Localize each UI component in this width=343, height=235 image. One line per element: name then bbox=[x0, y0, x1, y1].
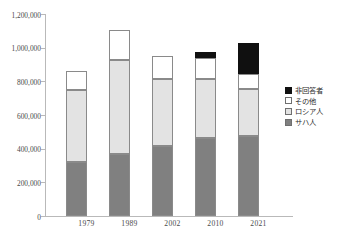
bar-segment-russians bbox=[66, 90, 87, 162]
x-axis-line bbox=[45, 216, 293, 217]
bar-segment-russians bbox=[195, 79, 216, 138]
y-axis-tick-label: 1,200,000 bbox=[0, 11, 41, 20]
bar-segment-sakha bbox=[152, 146, 173, 216]
bar-segment-russians bbox=[109, 60, 130, 154]
y-axis-tick bbox=[41, 81, 45, 82]
y-axis-tick-label: 200,000 bbox=[0, 179, 41, 188]
plot-area: 1979 1989 2002 2010 2021 bbox=[45, 14, 293, 216]
bar-segment-sakha bbox=[238, 136, 259, 216]
bar-segment-other bbox=[195, 58, 216, 79]
bar-segment-nonrespondents bbox=[238, 43, 259, 74]
y-axis-tick-label: 1,000,000 bbox=[0, 44, 41, 53]
legend-item-label: サハ人 bbox=[295, 117, 316, 127]
y-axis-tick bbox=[41, 182, 45, 183]
y-axis-tick bbox=[41, 216, 45, 217]
legend-item-label: 非回答者 bbox=[295, 85, 323, 95]
bar-segment-other bbox=[152, 56, 173, 79]
stacked-bar-chart: 1,200,000 1,000,000 800,000 600,000 400,… bbox=[0, 0, 343, 235]
light-gray-swatch-icon bbox=[285, 108, 292, 115]
y-axis-tick bbox=[41, 14, 45, 15]
y-axis-tick-label: 0 bbox=[0, 213, 41, 222]
white-swatch-icon bbox=[285, 97, 292, 104]
y-axis-tick bbox=[41, 48, 45, 49]
bar-segment-other bbox=[238, 74, 259, 89]
bar-segment-russians bbox=[152, 79, 173, 146]
legend-item-russians: ロシア人 bbox=[285, 106, 343, 117]
black-swatch-icon bbox=[285, 87, 292, 94]
bar-segment-sakha bbox=[109, 154, 130, 216]
y-axis-tick bbox=[41, 149, 45, 150]
gray-swatch-icon bbox=[285, 119, 292, 126]
y-axis-line bbox=[45, 14, 46, 216]
bar-segment-other bbox=[109, 30, 130, 60]
y-axis-tick-label: 800,000 bbox=[0, 78, 41, 87]
y-axis-tick-label: 400,000 bbox=[0, 145, 41, 154]
bar-segment-sakha bbox=[195, 138, 216, 216]
bar-segment-sakha bbox=[66, 162, 87, 216]
x-axis-tick-label: 2021 bbox=[229, 219, 289, 228]
bar-segment-nonrespondents bbox=[195, 52, 216, 58]
legend-item-other: その他 bbox=[285, 96, 343, 107]
legend-item-label: ロシア人 bbox=[295, 106, 323, 116]
bar-segment-other bbox=[66, 71, 87, 90]
chart-legend: 非回答者 その他 ロシア人 サハ人 bbox=[285, 85, 343, 127]
legend-item-sakha: サハ人 bbox=[285, 117, 343, 128]
bar-segment-russians bbox=[238, 89, 259, 136]
y-axis-tick bbox=[41, 115, 45, 116]
y-axis-tick-label: 600,000 bbox=[0, 112, 41, 121]
legend-item-nonrespondents: 非回答者 bbox=[285, 85, 343, 96]
legend-item-label: その他 bbox=[295, 96, 316, 106]
